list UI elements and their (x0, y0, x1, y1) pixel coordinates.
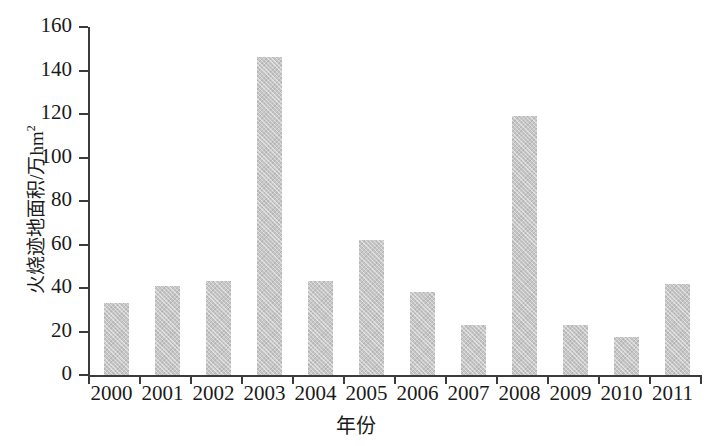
x-axis-tick-label: 2003 (239, 380, 290, 406)
y-axis-tick: 60 (79, 244, 88, 246)
bar-2008 (512, 116, 537, 375)
y-axis-tick: 140 (79, 70, 88, 72)
plot-area: 020406080100120140160 (88, 27, 700, 375)
bar-2010 (614, 337, 639, 375)
bar-2000 (104, 303, 129, 375)
y-axis-tick-label: 100 (41, 145, 73, 167)
bar-2003 (257, 57, 282, 375)
x-axis-tick-label: 2009 (545, 380, 596, 406)
y-axis-tick: 20 (79, 331, 88, 333)
bar-2004 (308, 281, 333, 375)
y-axis-tick: 80 (79, 200, 88, 202)
bar-2001 (155, 286, 180, 375)
y-axis-title-superscript: 2 (24, 125, 38, 131)
y-axis-tick: 100 (79, 157, 88, 159)
x-axis-tick-label: 2010 (596, 380, 647, 406)
x-axis-tick-label: 2008 (494, 380, 545, 406)
x-axis-tick-label: 2005 (341, 380, 392, 406)
y-axis-tick-label: 160 (41, 14, 73, 36)
bar-2006 (410, 292, 435, 375)
x-tick-labels-group: 2000200120022003200420052006200720082009… (88, 380, 702, 410)
y-axis-tick-label: 80 (51, 188, 72, 210)
x-axis-tick-label: 2011 (647, 380, 698, 406)
bar-2007 (461, 325, 486, 375)
x-axis-tick-label: 2000 (86, 380, 137, 406)
bar-2011 (665, 284, 690, 375)
y-axis-tick-label: 140 (41, 58, 73, 80)
x-axis-tick-label: 2004 (290, 380, 341, 406)
y-axis-tick: 40 (79, 287, 88, 289)
y-axis-tick: 0 (79, 374, 88, 376)
y-axis-tick-label: 60 (51, 232, 72, 254)
y-axis-tick-label: 40 (51, 275, 72, 297)
y-axis-tick-label: 20 (51, 319, 72, 341)
y-axis-line (88, 27, 90, 376)
bar-chart-figure: 火烧迹地面积/万hm2 020406080100120140160 200020… (0, 0, 711, 446)
bar-2002 (206, 281, 231, 375)
bar-2005 (359, 240, 384, 375)
y-axis-tick-label: 0 (62, 362, 73, 384)
y-axis-tick: 160 (79, 26, 88, 28)
x-axis-tick-label: 2001 (137, 380, 188, 406)
y-axis-tick-label: 120 (41, 101, 73, 123)
x-axis-tick-label: 2006 (392, 380, 443, 406)
y-axis-tick: 120 (79, 113, 88, 115)
x-axis-title: 年份 (0, 410, 711, 439)
x-axis-tick-label: 2007 (443, 380, 494, 406)
bar-2009 (563, 325, 588, 375)
x-axis-tick-label: 2002 (188, 380, 239, 406)
